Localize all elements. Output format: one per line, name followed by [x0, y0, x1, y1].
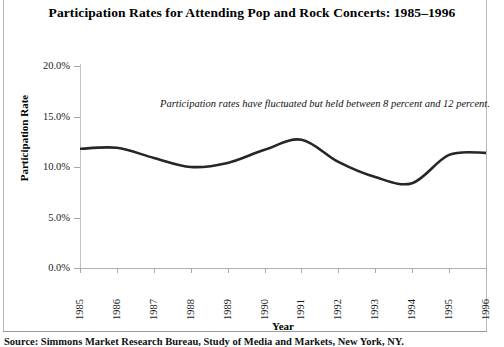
x-tick-mark: [301, 268, 302, 273]
participation-rate-line: [80, 66, 486, 268]
x-tick-mark: [375, 268, 376, 273]
x-tick-mark: [265, 268, 266, 273]
y-tick-label-wrap: 20.0%: [6, 61, 70, 71]
x-tick-mark: [486, 268, 487, 273]
x-tick-mark: [191, 268, 192, 273]
x-tick-label: 1986: [111, 276, 123, 320]
x-tick-label: 1985: [74, 276, 86, 320]
x-tick-label: 1987: [148, 276, 160, 320]
y-tick-label-wrap: 5.0%: [6, 213, 70, 223]
x-tick-label: 1990: [259, 276, 271, 320]
x-tick-label: 1993: [369, 276, 381, 320]
x-tick-mark: [412, 268, 413, 273]
y-tick-label-wrap: 15.0%: [6, 112, 70, 122]
x-tick-mark: [154, 268, 155, 273]
x-axis-line: [80, 268, 486, 269]
frame-left-rule: [3, 0, 4, 332]
x-axis-title: Year: [80, 320, 486, 332]
x-tick-label: 1992: [332, 276, 344, 320]
x-tick-mark: [228, 268, 229, 273]
x-tick-mark: [117, 268, 118, 273]
x-tick-label: 1994: [406, 276, 418, 320]
y-axis-title: Participation Rate: [18, 48, 30, 228]
chart-title: Participation Rates for Attending Pop an…: [0, 5, 504, 21]
x-tick-label: 1989: [222, 276, 234, 320]
x-tick-mark: [338, 268, 339, 273]
plot-area: [80, 66, 486, 268]
x-tick-label: 1996: [480, 276, 492, 320]
x-tick-mark: [80, 268, 81, 273]
y-tick-label-wrap: 10.0%: [6, 162, 70, 172]
x-tick-label: 1988: [185, 276, 197, 320]
x-tick-label: 1991: [295, 276, 307, 320]
x-tick-mark: [449, 268, 450, 273]
source-note: Source: Simmons Market Research Bureau, …: [4, 336, 404, 347]
y-tick-label-wrap: 0.0%: [6, 263, 70, 273]
x-tick-label: 1995: [443, 276, 455, 320]
y-tick-label: 0.0%: [12, 263, 70, 273]
